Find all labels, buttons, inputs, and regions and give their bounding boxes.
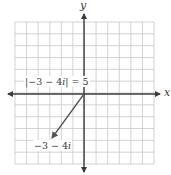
- complex-plane: [0, 0, 171, 175]
- modulus-suffix: | = 5: [65, 76, 88, 87]
- point-label: −3 − 4i: [33, 140, 72, 151]
- modulus-prefix: |−3 − 4: [25, 76, 62, 87]
- x-axis-label: x: [164, 86, 170, 99]
- y-axis-label: y: [80, 0, 86, 12]
- point-i: i: [68, 140, 71, 151]
- modulus-label: |−3 − 4i| = 5: [24, 76, 90, 87]
- vector-arrow: [52, 94, 84, 138]
- point-prefix: −3 − 4: [34, 140, 68, 151]
